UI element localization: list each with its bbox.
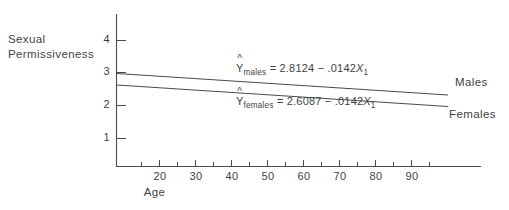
x-tick-label-70: 70 xyxy=(329,170,351,182)
equation-males-xsub: 1 xyxy=(364,68,369,77)
x-tick-label-30: 30 xyxy=(185,170,207,182)
y-axis-title: Sexual Permissiveness xyxy=(8,32,94,62)
equation-females-xsub: 1 xyxy=(371,101,376,110)
x-axis-title-text: Age xyxy=(144,186,166,198)
x-tick-label-90: 90 xyxy=(401,170,423,182)
hat-accent-icon: ^ xyxy=(236,56,244,62)
series-label-females: Females xyxy=(449,108,496,120)
x-tick-label-50: 50 xyxy=(257,170,279,182)
chart-figure: Sexual Permissiveness 4 3 2 1 20 30 40 5… xyxy=(0,0,509,210)
equation-females-body: = 2.6087 − .0142 xyxy=(277,95,363,107)
y-tick-label-4: 4 xyxy=(94,33,110,45)
equation-males-subscript: males xyxy=(244,68,267,77)
series-label-males: Males xyxy=(455,76,488,88)
y-tick-label-2: 2 xyxy=(94,98,110,110)
x-tick-label-40: 40 xyxy=(221,170,243,182)
x-axis-minor-ticks xyxy=(142,162,430,167)
y-tick-label-3: 3 xyxy=(94,65,110,77)
y-hat-symbol-females: ^Y xyxy=(236,95,244,107)
equation-females-xvar: X xyxy=(363,95,371,107)
y-axis-ticks xyxy=(117,41,127,139)
y-tick-label-1: 1 xyxy=(94,131,110,143)
equation-females-subscript: females xyxy=(244,101,274,110)
x-axis-title: Age xyxy=(0,186,509,198)
x-tick-label-60: 60 xyxy=(293,170,315,182)
y-axis-title-line-2: Permissiveness xyxy=(8,47,94,62)
equation-males-xvar: X xyxy=(356,62,364,74)
x-tick-label-20: 20 xyxy=(149,170,171,182)
equation-females: ^Yfemales = 2.6087 − .0142X1 xyxy=(236,95,376,110)
equation-males: ^Ymales = 2.8124 − .0142X1 xyxy=(236,62,368,77)
y-axis-title-line-1: Sexual xyxy=(8,32,94,47)
x-tick-label-80: 80 xyxy=(365,170,387,182)
y-hat-symbol-males: ^Y xyxy=(236,62,244,74)
equation-males-body: = 2.8124 − .0142 xyxy=(270,62,356,74)
hat-accent-icon: ^ xyxy=(236,89,244,95)
